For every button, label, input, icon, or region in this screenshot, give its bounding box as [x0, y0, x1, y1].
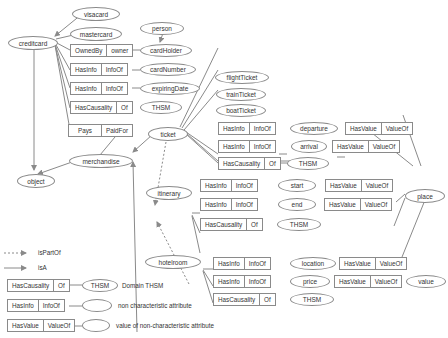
concept-thsm-creditcard[interactable]: THSM: [140, 101, 182, 114]
relation-hasinfo-start[interactable]: HasInfo InfoOf: [200, 179, 258, 192]
concept-object[interactable]: object: [17, 174, 55, 188]
relation-hasvalue-arrival[interactable]: HasValue ValueOf: [332, 140, 400, 153]
rel-right: owner: [106, 45, 132, 56]
rel-right: ValueOf: [368, 141, 399, 152]
relation-hascausality-hotelroom[interactable]: HasCausality Of: [213, 293, 276, 306]
legend-thsm-node: THSM: [82, 279, 118, 292]
concept-cardholder[interactable]: cardHolder: [140, 44, 192, 57]
concept-price[interactable]: price: [290, 275, 330, 288]
legend-ispartof: isPartOf: [38, 249, 61, 256]
rel-left: HasCausality: [214, 294, 259, 305]
rel-right: InfoOf: [244, 258, 270, 269]
rel-right: Of: [264, 158, 280, 169]
rel-left: HasValue: [8, 320, 43, 331]
relation-ownedby[interactable]: OwnedBy owner: [70, 44, 133, 57]
concept-place[interactable]: place: [405, 189, 445, 203]
rel-right: Of: [259, 294, 275, 305]
rel-left: HasInfo: [71, 83, 101, 94]
legend-domain-thsm: Domain THSM: [122, 282, 163, 289]
concept-thsm-hotelroom[interactable]: THSM: [290, 293, 334, 306]
legend-relation-hasinfo: HasInfo InfoOf: [7, 299, 65, 312]
rel-right: PaidFor: [101, 125, 132, 136]
relation-hasvalue-departure[interactable]: HasValue ValueOf: [345, 122, 413, 135]
concept-visacard[interactable]: visacard: [72, 7, 120, 21]
rel-right: InfoOf: [101, 83, 127, 94]
rel-right: ValueOf: [43, 320, 74, 331]
relation-hascausality-creditcard[interactable]: HasCausality Of: [70, 101, 133, 114]
rel-left: HasInfo: [201, 180, 231, 191]
legend-relation-hascausality: HasCausality Of: [7, 279, 70, 292]
legend-value-non-characteristic: value of non-characteristic attribute: [116, 322, 214, 329]
relation-hasinfo-location[interactable]: HasInfo InfoOf: [213, 257, 271, 270]
rel-right: ValueOf: [370, 276, 401, 287]
rel-left: HasInfo: [71, 64, 101, 75]
concept-value[interactable]: value: [406, 275, 446, 288]
rel-left: HasInfo: [219, 123, 249, 134]
relation-hasinfo-cardnumber[interactable]: HasInfo InfoOf: [70, 63, 128, 76]
rel-left: HasValue: [333, 141, 368, 152]
concept-itinerary[interactable]: itinerary: [146, 186, 192, 200]
relation-hasinfo-arrival[interactable]: HasInfo InfoOf: [218, 140, 276, 153]
concept-expiringdate[interactable]: expiringDate: [140, 82, 200, 95]
relation-hasinfo-expiringdate[interactable]: HasInfo InfoOf: [70, 82, 128, 95]
rel-left: HasValue: [335, 276, 370, 287]
rel-right: InfoOf: [38, 300, 64, 311]
rel-right: ValueOf: [360, 199, 391, 210]
rel-left: HasCausality: [71, 102, 116, 113]
rel-left: HasCausality: [219, 158, 264, 169]
concept-end[interactable]: end: [278, 198, 316, 211]
rel-right: Of: [246, 219, 262, 230]
concept-trainticket[interactable]: trainTicket: [216, 88, 266, 101]
concept-merchandise[interactable]: merchandise: [69, 154, 133, 168]
concept-hotelroom[interactable]: hotelroom: [145, 255, 201, 269]
concept-ticket[interactable]: ticket: [148, 127, 188, 141]
concept-thsm-ticket[interactable]: THSM: [287, 157, 329, 170]
relation-hasvalue-start[interactable]: HasValue ValueOf: [325, 179, 393, 192]
rel-left: HasValue: [325, 199, 360, 210]
rel-right: InfoOf: [231, 180, 257, 191]
concept-arrival[interactable]: arrival: [291, 140, 327, 153]
rel-right: ValueOf: [381, 123, 412, 134]
rel-right: InfoOf: [244, 276, 270, 287]
rel-left: HasInfo: [214, 258, 244, 269]
relation-hascausality-itinerary[interactable]: HasCausality Of: [200, 218, 263, 231]
relation-hasinfo-price[interactable]: HasInfo InfoOf: [213, 275, 271, 288]
concept-person[interactable]: person: [140, 22, 184, 35]
legend-empty-node-1: [82, 299, 112, 312]
concept-mastercard[interactable]: mastercard: [70, 27, 122, 41]
rel-left: Pays: [69, 125, 101, 136]
rel-left: HasInfo: [219, 141, 249, 152]
concept-start[interactable]: start: [278, 179, 316, 192]
rel-left: HasValue: [326, 180, 361, 191]
relation-pays[interactable]: Pays PaidFor: [68, 124, 133, 137]
relation-hascausality-ticket[interactable]: HasCausality Of: [218, 157, 281, 170]
relation-hasvalue-end[interactable]: HasValue ValueOf: [324, 198, 392, 211]
rel-right: InfoOf: [249, 123, 275, 134]
concept-creditcard[interactable]: creditcard: [8, 36, 58, 50]
concept-thsm-itinerary[interactable]: THSM: [277, 218, 321, 231]
rel-left: HasCausality: [201, 219, 246, 230]
legend-relation-hasvalue: HasValue ValueOf: [7, 319, 75, 332]
rel-left: OwnedBy: [71, 45, 106, 56]
rel-left: HasInfo: [8, 300, 38, 311]
rel-right: ValueOf: [361, 180, 392, 191]
rel-right: Of: [53, 280, 69, 291]
relation-hasvalue-price[interactable]: HasValue ValueOf: [334, 275, 402, 288]
legend-isa: isA: [38, 264, 47, 271]
relation-hasvalue-location[interactable]: HasValue ValueOf: [339, 257, 407, 270]
legend-empty-node-2: [82, 319, 110, 332]
rel-left: HasValue: [340, 258, 375, 269]
concept-cardnumber[interactable]: cardNumber: [140, 63, 196, 76]
rel-right: InfoOf: [231, 199, 257, 210]
rel-right: ValueOf: [375, 258, 406, 269]
rel-right: InfoOf: [101, 64, 127, 75]
rel-left: HasCausality: [8, 280, 53, 291]
concept-boatticket[interactable]: boatTicket: [216, 104, 266, 117]
relation-hasinfo-departure[interactable]: HasInfo InfoOf: [218, 122, 276, 135]
legend-non-characteristic: non characteristic attribute: [118, 302, 192, 309]
concept-location[interactable]: location: [290, 257, 336, 270]
rel-left: HasInfo: [201, 199, 231, 210]
concept-departure[interactable]: departure: [290, 122, 338, 135]
concept-flightticket[interactable]: flightTicket: [215, 71, 269, 84]
relation-hasinfo-end[interactable]: HasInfo InfoOf: [200, 198, 258, 211]
